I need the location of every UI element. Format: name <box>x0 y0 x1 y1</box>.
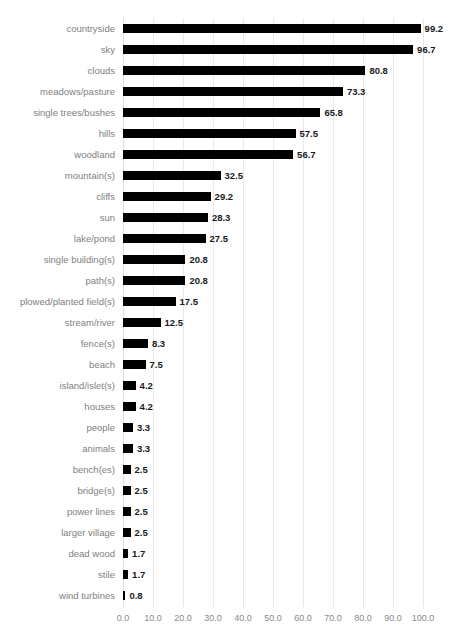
bar-row: wind turbines0.8 <box>0 585 453 606</box>
bar <box>123 45 413 54</box>
bar-value-label: 0.8 <box>129 585 142 606</box>
bar-container: 7.5 <box>123 354 453 375</box>
bar-container: 1.7 <box>123 543 453 564</box>
bar-container: 2.5 <box>123 522 453 543</box>
bar <box>123 171 221 180</box>
bar-row: bench(es)2.5 <box>0 459 453 480</box>
category-label: power lines <box>0 501 115 522</box>
category-label: stream/river <box>0 312 115 333</box>
category-label: path(s) <box>0 270 115 291</box>
bar <box>123 570 128 579</box>
bar-container: 4.2 <box>123 375 453 396</box>
bar <box>123 129 296 138</box>
bar-value-label: 56.7 <box>297 144 316 165</box>
bar-value-label: 20.8 <box>189 270 208 291</box>
bar-container: 2.5 <box>123 480 453 501</box>
bar-container: 2.5 <box>123 459 453 480</box>
bar-container: 20.8 <box>123 249 453 270</box>
category-label: meadows/pasture <box>0 81 115 102</box>
bar <box>123 444 133 453</box>
bar-container: 28.3 <box>123 207 453 228</box>
bar-row: sky96.7 <box>0 39 453 60</box>
bar <box>123 339 148 348</box>
bar-row: island/islet(s)4.2 <box>0 375 453 396</box>
category-label: larger village <box>0 522 115 543</box>
bar-value-label: 96.7 <box>417 39 436 60</box>
bar-row: houses4.2 <box>0 396 453 417</box>
category-label: sky <box>0 39 115 60</box>
x-axis: 0.010.020.030.040.050.060.070.080.090.01… <box>0 610 453 630</box>
bar-row: stream/river12.5 <box>0 312 453 333</box>
bar-container: 3.3 <box>123 417 453 438</box>
bar-row: cliffs29.2 <box>0 186 453 207</box>
bar <box>123 360 146 369</box>
bar <box>123 591 125 600</box>
bar <box>123 528 131 537</box>
bar-row: stile1.7 <box>0 564 453 585</box>
bar-value-label: 4.2 <box>140 396 153 417</box>
bar <box>123 381 136 390</box>
x-tick-label: 100.0 <box>403 610 443 626</box>
bar-container: 3.3 <box>123 438 453 459</box>
bar-row: single building(s)20.8 <box>0 249 453 270</box>
bar-row: sun28.3 <box>0 207 453 228</box>
bar-value-label: 3.3 <box>137 438 150 459</box>
bar-row: clouds80.8 <box>0 60 453 81</box>
bar <box>123 24 421 33</box>
bar-container: 99.2 <box>123 18 453 39</box>
bar-row: plowed/planted field(s)17.5 <box>0 291 453 312</box>
category-label: houses <box>0 396 115 417</box>
bar-row: path(s)20.8 <box>0 270 453 291</box>
bar-row: dead wood1.7 <box>0 543 453 564</box>
bar <box>123 66 365 75</box>
bar-container: 17.5 <box>123 291 453 312</box>
bar-container: 57.5 <box>123 123 453 144</box>
bar-value-label: 32.5 <box>225 165 244 186</box>
bar-value-label: 2.5 <box>135 459 148 480</box>
bar-value-label: 2.5 <box>135 480 148 501</box>
bar-container: 20.8 <box>123 270 453 291</box>
bar-value-label: 2.5 <box>135 501 148 522</box>
bar-value-label: 3.3 <box>137 417 150 438</box>
category-label: people <box>0 417 115 438</box>
bar-row: countryside99.2 <box>0 18 453 39</box>
chart-title <box>0 0 453 5</box>
category-label: countryside <box>0 18 115 39</box>
bar-value-label: 17.5 <box>180 291 199 312</box>
category-label: fence(s) <box>0 333 115 354</box>
category-label: plowed/planted field(s) <box>0 291 115 312</box>
category-label: island/islet(s) <box>0 375 115 396</box>
bar <box>123 423 133 432</box>
bar-container: 29.2 <box>123 186 453 207</box>
category-label: mountain(s) <box>0 165 115 186</box>
bar-row: fence(s)8.3 <box>0 333 453 354</box>
bar-container: 8.3 <box>123 333 453 354</box>
bar-container: 80.8 <box>123 60 453 81</box>
bar-row: single trees/bushes65.8 <box>0 102 453 123</box>
bar-value-label: 8.3 <box>152 333 165 354</box>
bar-container: 96.7 <box>123 39 453 60</box>
bar <box>123 255 185 264</box>
bar-row: hills57.5 <box>0 123 453 144</box>
bar <box>123 318 161 327</box>
bar <box>123 402 136 411</box>
bar-row: lake/pond27.5 <box>0 228 453 249</box>
bar-container: 1.7 <box>123 564 453 585</box>
bar-container: 0.8 <box>123 585 453 606</box>
bar-container: 2.5 <box>123 501 453 522</box>
category-label: animals <box>0 438 115 459</box>
category-label: wind turbines <box>0 585 115 606</box>
bar-row: woodland56.7 <box>0 144 453 165</box>
category-label: bridge(s) <box>0 480 115 501</box>
category-label: sun <box>0 207 115 228</box>
bar-row: bridge(s)2.5 <box>0 480 453 501</box>
bar <box>123 150 293 159</box>
bar-value-label: 80.8 <box>369 60 388 81</box>
category-label: single trees/bushes <box>0 102 115 123</box>
bar-container: 56.7 <box>123 144 453 165</box>
category-label: clouds <box>0 60 115 81</box>
bar-value-label: 2.5 <box>135 522 148 543</box>
bar-value-label: 4.2 <box>140 375 153 396</box>
bar <box>123 507 131 516</box>
category-label: hills <box>0 123 115 144</box>
